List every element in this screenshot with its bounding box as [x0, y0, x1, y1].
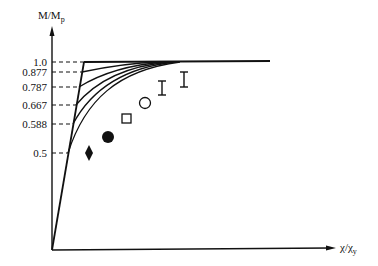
y-tick-label: 0.588	[22, 118, 47, 130]
i-beam-marker	[158, 81, 166, 95]
open-square-marker	[122, 114, 131, 123]
x-axis-arrow-icon	[326, 246, 336, 251]
moment-curvature-chart: M/Mp χ/χy 1.0 0.877 0.787 0.667 0.588 0.…	[0, 0, 378, 266]
elastic-line	[52, 62, 84, 250]
filled-circle-marker	[102, 131, 114, 143]
y-tick-label: 0.877	[22, 66, 47, 78]
y-tick-label: 0.787	[22, 81, 47, 93]
y-tick-label: 0.5	[33, 147, 47, 159]
y-tick-label: 0.667	[22, 99, 47, 111]
open-circle-marker	[140, 98, 151, 109]
x-axis	[52, 248, 330, 250]
diamond-marker	[85, 145, 93, 161]
i-beam-narrow-marker	[180, 72, 188, 87]
y-axis-title: M/Mp	[38, 9, 65, 24]
y-axis-arrow-icon	[50, 26, 55, 36]
moment-curvature-curves	[68, 62, 180, 153]
reference-lines	[52, 62, 84, 153]
x-axis-title: χ/χy	[339, 241, 357, 256]
